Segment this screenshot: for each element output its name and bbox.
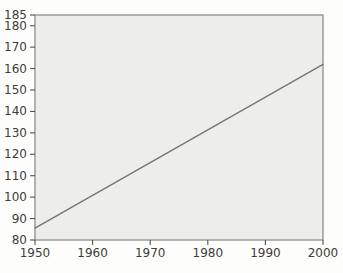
line-chart-figure: 8090100110120130140150160170180185195019… bbox=[0, 0, 343, 273]
y-axis-tick-label: 140 bbox=[4, 104, 27, 118]
y-axis-tick-label: 160 bbox=[4, 62, 27, 76]
page: { "figure": { "background_color": "#fdfd… bbox=[0, 0, 343, 273]
x-axis-tick-label: 1950 bbox=[20, 246, 51, 260]
x-axis-tick-label: 1990 bbox=[250, 246, 281, 260]
y-axis-tick-label: 90 bbox=[12, 212, 27, 226]
y-axis-tick-label: 80 bbox=[12, 233, 27, 247]
y-axis-tick-label: 110 bbox=[4, 169, 27, 183]
plot-area bbox=[35, 15, 323, 240]
x-axis-tick-label: 2000 bbox=[308, 246, 339, 260]
x-axis-tick-label: 1970 bbox=[135, 246, 166, 260]
y-axis-tick-label: 185 bbox=[4, 8, 27, 22]
y-axis-tick-label: 170 bbox=[4, 40, 27, 54]
y-axis-tick-label: 100 bbox=[4, 190, 27, 204]
x-axis-tick-label: 1960 bbox=[77, 246, 108, 260]
y-axis-tick-label: 120 bbox=[4, 147, 27, 161]
y-axis-tick-label: 150 bbox=[4, 83, 27, 97]
y-axis-tick-label: 130 bbox=[4, 126, 27, 140]
x-axis-tick-label: 1980 bbox=[193, 246, 224, 260]
line-chart: 8090100110120130140150160170180185195019… bbox=[0, 0, 343, 273]
